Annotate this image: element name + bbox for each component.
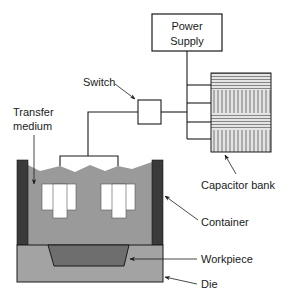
container-label: Container <box>201 216 249 228</box>
capacitor-bank-arrow <box>225 155 236 174</box>
die-label: Die <box>201 278 218 290</box>
transfer-medium-label-line2: medium <box>13 120 52 132</box>
die-arrow <box>165 277 197 284</box>
capacitor-section-4 <box>211 130 271 152</box>
container-arrow <box>165 196 198 220</box>
transfer-medium-label-line1: Transfer <box>13 106 54 118</box>
capacitor-section-3 <box>211 113 271 130</box>
power-supply-label-line1: Power <box>171 20 203 32</box>
switch-label: Switch <box>83 76 115 88</box>
switch-box <box>138 100 161 124</box>
power-supply-label-line2: Supply <box>170 35 204 47</box>
wiring <box>60 51 211 166</box>
container-wall-left <box>17 160 28 245</box>
workpiece <box>48 245 129 266</box>
capacitor-section-2 <box>211 90 271 113</box>
power-supply: Power Supply <box>152 14 222 51</box>
capacitor-bank-label: Capacitor bank <box>201 179 275 191</box>
switch-left-wire <box>88 112 138 156</box>
electrode-bus <box>60 156 118 166</box>
capacitor-bank <box>211 73 271 152</box>
switch-arrow <box>115 84 135 99</box>
workpiece-label: Workpiece <box>201 253 253 265</box>
capacitor-section-1 <box>211 73 271 90</box>
diagram-canvas: Power Supply Switch Capacitor bank <box>0 0 294 297</box>
container-wall-right <box>152 160 163 245</box>
